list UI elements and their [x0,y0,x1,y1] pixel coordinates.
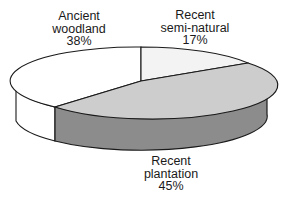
label-ancient-woodland: Ancient woodland 38% [39,10,119,48]
label-ancient-pct: 38% [39,35,119,48]
label-seminatural-pct: 17% [150,34,240,47]
label-plantation-pct: 45% [131,180,211,193]
label-recent-semi-natural: Recent semi-natural 17% [150,9,240,47]
label-plantation-line1: Recent [131,155,211,168]
label-ancient-line1: Ancient [39,10,119,23]
label-recent-plantation: Recent plantation 45% [131,155,211,193]
label-seminatural-line1: Recent [150,9,240,22]
